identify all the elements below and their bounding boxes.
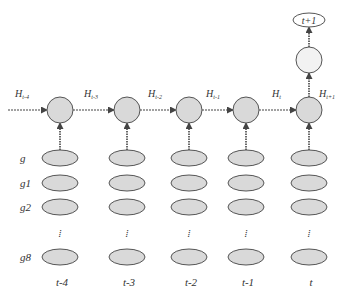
feature-ellipse <box>228 175 264 191</box>
ellipsis-mark: ⁞ <box>58 227 62 239</box>
hidden-state-label: Ht-1 <box>205 88 220 100</box>
hidden-state-label: Ht-3 <box>83 88 98 100</box>
feature-ellipse <box>42 150 78 166</box>
ellipsis-mark: ⁞ <box>244 227 248 239</box>
feature-ellipse <box>171 150 207 166</box>
feature-ellipse <box>171 175 207 191</box>
time-step-label: t-4 <box>56 276 69 288</box>
feature-ellipse <box>109 175 145 191</box>
time-step-label: t-2 <box>185 276 198 288</box>
diagram-svg: ⁞⁞⁞⁞⁞Ht-4Ht-3Ht-2Ht-1HtHt+1t+1gg1g2g8t-4… <box>0 0 345 292</box>
row-label: g2 <box>20 201 32 213</box>
hidden-node <box>47 97 73 123</box>
feature-ellipse <box>291 150 327 166</box>
feature-ellipse <box>171 199 207 215</box>
feature-ellipse <box>291 175 327 191</box>
output-hidden-node <box>296 47 322 73</box>
feature-ellipse <box>228 150 264 166</box>
hidden-node <box>233 97 259 123</box>
feature-ellipse <box>228 199 264 215</box>
row-label: g1 <box>20 177 31 189</box>
hidden-state-label: Ht <box>271 88 281 100</box>
time-step-label: t <box>309 276 313 288</box>
feature-ellipse <box>109 199 145 215</box>
hidden-state-label: Ht-4 <box>14 88 29 100</box>
time-step-label: t-1 <box>242 276 254 288</box>
hidden-node <box>176 97 202 123</box>
hidden-node <box>296 97 322 123</box>
ellipsis-mark: ⁞ <box>307 227 311 239</box>
feature-ellipse <box>42 249 78 265</box>
ellipsis-mark: ⁞ <box>187 227 191 239</box>
feature-ellipse <box>228 249 264 265</box>
feature-ellipse <box>42 199 78 215</box>
hidden-state-label: Ht+1 <box>318 88 335 100</box>
feature-ellipse <box>109 249 145 265</box>
feature-ellipse <box>109 150 145 166</box>
feature-ellipse <box>291 249 327 265</box>
row-label: g8 <box>20 251 32 263</box>
output-label: t+1 <box>302 15 317 26</box>
row-label: g <box>20 152 26 164</box>
feature-ellipse <box>42 175 78 191</box>
feature-ellipse <box>291 199 327 215</box>
time-step-label: t-3 <box>123 276 136 288</box>
feature-ellipse <box>171 249 207 265</box>
ellipsis-mark: ⁞ <box>125 227 129 239</box>
rnn-diagram: ⁞⁞⁞⁞⁞Ht-4Ht-3Ht-2Ht-1HtHt+1t+1gg1g2g8t-4… <box>0 0 345 292</box>
hidden-node <box>114 97 140 123</box>
hidden-state-label: Ht-2 <box>147 88 162 100</box>
